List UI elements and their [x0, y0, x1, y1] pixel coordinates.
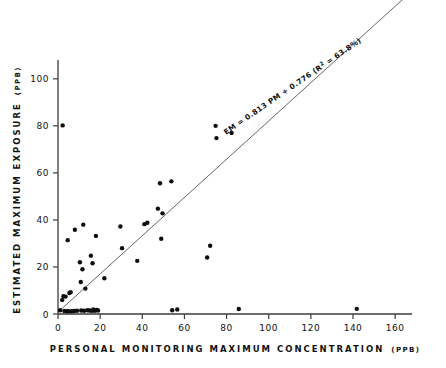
data-point	[94, 234, 98, 238]
axes	[58, 60, 412, 314]
data-point	[89, 253, 93, 257]
y-tick-label: 40	[37, 215, 49, 225]
y-axis-title-text: ESTIMATED MAXIMUM EXPOSURE(PPB)	[12, 66, 22, 314]
data-point	[73, 228, 77, 232]
y-tick-label: 0	[43, 310, 49, 320]
data-point	[213, 124, 217, 128]
data-point	[205, 255, 209, 259]
data-point	[90, 261, 94, 265]
data-point	[60, 298, 64, 302]
data-point	[58, 308, 62, 312]
x-tick-label: 120	[302, 323, 321, 333]
x-tick-label: 20	[94, 323, 106, 333]
data-point	[158, 181, 162, 185]
data-point	[83, 286, 87, 290]
data-point	[96, 308, 100, 312]
data-point	[120, 246, 124, 250]
y-axis-ticks: 020406080100	[30, 74, 58, 319]
data-point	[237, 307, 241, 311]
data-point	[169, 179, 173, 183]
data-point	[355, 307, 359, 311]
data-point	[208, 244, 212, 248]
y-tick-label: 60	[37, 168, 49, 178]
data-point	[80, 267, 84, 271]
data-point	[65, 238, 69, 242]
y-tick-label: 100	[30, 74, 49, 84]
y-tick-label: 20	[37, 262, 49, 272]
x-axis-ticks: 020406080100120140160	[55, 314, 405, 333]
data-point	[75, 309, 79, 313]
data-point	[135, 259, 139, 263]
scatter-plot-figure: 020406080100120140160 020406080100 EM = …	[0, 0, 446, 368]
data-point	[145, 221, 149, 225]
data-point	[118, 224, 122, 228]
data-point	[170, 308, 174, 312]
y-axis-title: ESTIMATED MAXIMUM EXPOSURE(PPB)	[12, 66, 22, 314]
data-points	[58, 123, 359, 313]
x-tick-label: 40	[136, 323, 148, 333]
x-axis-title-text: PERSONAL MONITORING MAXIMUM CONCENTRATIO…	[50, 344, 421, 354]
plot-canvas: 020406080100120140160 020406080100 EM = …	[0, 0, 446, 368]
data-point	[159, 237, 163, 241]
data-point	[175, 307, 179, 311]
data-point	[160, 211, 164, 215]
x-tick-label: 100	[259, 323, 278, 333]
data-point	[79, 280, 83, 284]
x-tick-label: 160	[386, 323, 405, 333]
data-point	[156, 206, 160, 210]
data-point	[68, 290, 72, 294]
fit-equation-text: EM = 0.813 PM + 0.776 (R2 = 63.8%)	[222, 35, 363, 136]
x-tick-label: 0	[55, 323, 61, 333]
data-point	[214, 136, 218, 140]
fit-equation-annotation: EM = 0.813 PM + 0.776 (R2 = 63.8%)	[222, 35, 363, 136]
data-point	[63, 294, 67, 298]
data-point	[78, 260, 82, 264]
data-point	[102, 276, 106, 280]
x-tick-label: 140	[344, 323, 363, 333]
y-tick-label: 80	[37, 121, 49, 131]
data-point	[81, 222, 85, 226]
x-tick-label: 60	[178, 323, 190, 333]
data-point	[60, 123, 64, 127]
x-tick-label: 80	[220, 323, 232, 333]
x-axis-title: PERSONAL MONITORING MAXIMUM CONCENTRATIO…	[50, 344, 421, 354]
